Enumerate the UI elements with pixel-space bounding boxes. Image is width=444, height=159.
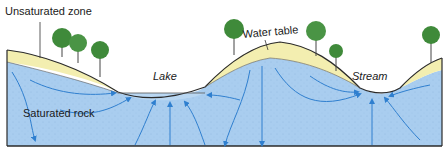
tree-icon bbox=[52, 28, 72, 57]
groundwater-diagram: Unsaturated zone Water table Lake Stream… bbox=[0, 0, 444, 159]
tree-icon bbox=[91, 41, 109, 77]
tree-icon bbox=[422, 26, 440, 63]
label-unsaturated-zone: Unsaturated zone bbox=[5, 5, 92, 17]
tree-icon bbox=[69, 34, 87, 63]
tree-icon bbox=[224, 19, 244, 55]
label-saturated-rock: Saturated rock bbox=[23, 107, 95, 119]
label-lake: Lake bbox=[153, 70, 177, 82]
label-stream: Stream bbox=[352, 70, 387, 82]
label-water-table: Water table bbox=[242, 23, 299, 40]
